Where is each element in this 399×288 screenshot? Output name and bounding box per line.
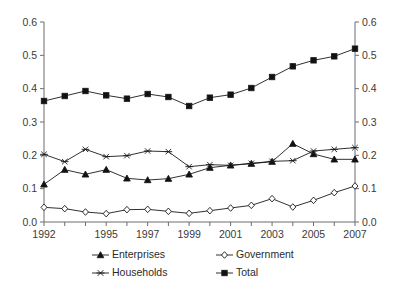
marker-filled-square (166, 94, 171, 99)
y-tick-label-right: 0.5 (362, 49, 377, 61)
series-total (41, 46, 357, 109)
y-tick-label-right: 0.1 (362, 182, 377, 194)
legend-label: Total (236, 266, 258, 278)
marker-open-diamond (248, 202, 254, 209)
y-tick-label-left: 0.0 (22, 216, 37, 228)
y-tick-label-right: 0.2 (362, 149, 377, 161)
x-tick-label: 1995 (95, 228, 119, 240)
marker-filled-triangle (290, 140, 297, 146)
marker-filled-square (228, 92, 233, 97)
y-tick-label-left: 0.5 (22, 49, 37, 61)
marker-filled-square (222, 270, 227, 275)
legend-label: Households (112, 266, 167, 278)
marker-open-diamond (62, 205, 68, 212)
series-government (41, 183, 358, 217)
x-tick-label: 1992 (32, 228, 56, 240)
x-tick-label: 1999 (177, 228, 201, 240)
legend-label: Government (236, 248, 294, 260)
marker-filled-square (186, 103, 191, 108)
marker-open-diamond (207, 207, 213, 214)
marker-asterisk (102, 154, 110, 159)
marker-open-diamond (145, 206, 151, 213)
legend-label: Enterprises (112, 248, 165, 260)
marker-filled-triangle (103, 166, 110, 172)
marker-filled-triangle (124, 175, 131, 181)
marker-open-diamond (290, 204, 296, 211)
marker-open-diamond (124, 206, 130, 213)
marker-filled-square (145, 91, 150, 96)
legend-item-government[interactable]: Government (216, 248, 294, 260)
marker-open-diamond (82, 209, 88, 216)
marker-filled-triangle (61, 166, 68, 172)
y-tick-label-left: 0.3 (22, 116, 37, 128)
series-line-enterprises (44, 144, 355, 185)
marker-filled-square (104, 93, 109, 98)
series-line-households (44, 148, 355, 167)
marker-filled-square (41, 98, 46, 103)
marker-filled-square (290, 64, 295, 69)
marker-open-diamond (103, 210, 109, 217)
marker-filled-square (124, 96, 129, 101)
y-tick-label-right: 0.0 (362, 216, 377, 228)
series-enterprises (41, 140, 359, 187)
legend-item-enterprises[interactable]: Enterprises (92, 248, 165, 260)
y-tick-label-left: 0.4 (22, 82, 37, 94)
marker-asterisk (123, 153, 131, 158)
marker-open-diamond (186, 210, 192, 217)
y-tick-label-right: 0.3 (362, 116, 377, 128)
y-tick-label-right: 0.4 (362, 82, 377, 94)
series-line-total (44, 49, 355, 106)
y-tick-label-left: 0.1 (22, 182, 37, 194)
marker-open-diamond (222, 252, 228, 259)
marker-filled-square (311, 58, 316, 63)
marker-filled-square (352, 46, 357, 51)
y-tick-label-left: 0.6 (22, 16, 37, 28)
marker-asterisk (144, 148, 152, 153)
y-tick-label-right: 0.6 (362, 16, 377, 28)
marker-filled-square (249, 85, 254, 90)
x-tick-label: 2005 (302, 228, 326, 240)
marker-asterisk (330, 147, 338, 152)
marker-filled-square (269, 74, 274, 79)
axes: 0.00.00.10.10.20.20.30.30.40.40.50.50.60… (22, 16, 376, 240)
marker-filled-square (207, 95, 212, 100)
x-tick-label: 2003 (260, 228, 284, 240)
marker-open-diamond (311, 197, 317, 204)
legend-item-households[interactable]: Households (92, 266, 167, 278)
legend: EnterprisesGovernmentHouseholdsTotal (92, 248, 294, 278)
marker-asterisk (97, 270, 105, 276)
marker-filled-square (332, 54, 337, 59)
x-tick-label: 2001 (219, 228, 243, 240)
marker-filled-square (62, 93, 67, 98)
series-households (40, 145, 359, 169)
x-tick-label: 1997 (136, 228, 160, 240)
legend-item-total[interactable]: Total (216, 266, 258, 278)
series-line-government (44, 186, 355, 214)
chart-canvas: 0.00.00.10.10.20.20.30.30.40.40.50.50.60… (0, 0, 399, 288)
marker-open-diamond (269, 195, 275, 202)
line-chart: 0.00.00.10.10.20.20.30.30.40.40.50.50.60… (0, 0, 399, 288)
marker-open-diamond (228, 205, 234, 212)
marker-filled-square (83, 88, 88, 93)
marker-filled-triangle (41, 181, 48, 187)
marker-open-diamond (331, 189, 337, 196)
marker-asterisk (289, 158, 297, 163)
x-tick-label: 2007 (343, 228, 367, 240)
marker-open-diamond (165, 208, 171, 215)
y-tick-label-left: 0.2 (22, 149, 37, 161)
marker-open-diamond (41, 204, 47, 211)
